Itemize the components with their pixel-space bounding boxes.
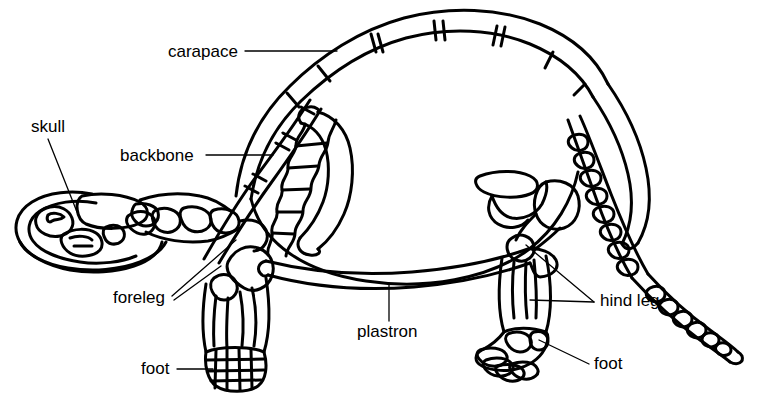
hind-leg-outer-contour-left: [499, 258, 504, 332]
shoulder-girdle-scapula-right: [318, 112, 352, 249]
foreleg-radius-2: [227, 298, 228, 348]
neck-vert-chain-3: [180, 207, 211, 232]
hind-leg-outer-contour-right: [546, 256, 551, 332]
tortoise-skeleton-illustration: [0, 0, 762, 411]
front-foot-phalanx-row-3: [211, 380, 261, 381]
skeleton-diagram: carapace skull backbone foreleg foot pla…: [0, 0, 762, 411]
hind-tibia: [513, 262, 515, 318]
foreleg-outer-contour-right: [264, 278, 269, 352]
front-foot-phalanx-row-1: [207, 359, 264, 360]
foreleg-radius: [214, 296, 216, 346]
label-backbone: backbone: [120, 147, 194, 164]
leader-line-hindleg-b: [530, 300, 594, 302]
backbone-spine-div-4: [288, 166, 318, 168]
tail-vert-6: [715, 343, 731, 356]
label-foot-hind: foot: [594, 355, 622, 372]
hind-tibia-2: [525, 262, 527, 318]
label-hind-leg: hind leg: [600, 292, 660, 309]
skull-nasal-detail: [70, 236, 92, 246]
label-skull: skull: [31, 118, 65, 135]
front-foot-phalanx-row-2: [208, 370, 264, 371]
label-foot-front: foot: [141, 360, 169, 377]
foreleg-ulna: [240, 292, 243, 346]
skull-inner-outline: [29, 201, 136, 263]
skull-eye-inner-mark: [47, 213, 64, 222]
carapace-plate-divider-1: [287, 93, 299, 107]
carapace-plate-divider-6: [443, 21, 445, 40]
shoulder-girdle-foot: [298, 238, 320, 255]
backbone-spine-div-3: [282, 189, 310, 190]
leader-line-foot-hind: [539, 340, 589, 364]
leader-line-skull: [48, 139, 77, 212]
carapace-plate-divider-7: [493, 26, 497, 45]
carapace-plate-divider-8: [501, 27, 505, 46]
label-carapace: carapace: [168, 43, 238, 60]
label-plastron: plastron: [357, 323, 417, 340]
carapace-plate-divider-10: [574, 84, 585, 95]
backbone-spine-div-1: [272, 233, 294, 234]
carapace-inner-outline: [251, 31, 593, 199]
foreleg-outer-contour-left: [203, 284, 206, 352]
skull-nasal-mass: [61, 229, 102, 256]
plastron-front-tip: [259, 261, 268, 276]
pelvis-ilium-wing: [476, 172, 538, 198]
carapace-plate-divider-5: [434, 21, 436, 40]
label-foreleg: foreleg: [113, 289, 165, 306]
carapace-plate-divider-2: [318, 66, 330, 81]
carapace-plate-divider-4: [378, 34, 383, 52]
foreleg-ulna-2: [252, 288, 256, 346]
tail-tip: [730, 352, 742, 364]
hind-fibula: [534, 260, 536, 318]
hind-foot-tarsal-1: [506, 332, 532, 352]
neck-vert-chain-4: [210, 209, 239, 233]
